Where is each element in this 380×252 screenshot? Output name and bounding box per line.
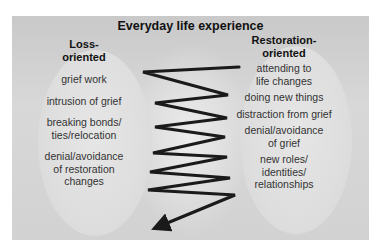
oscillation-zigzag-arrow [0, 0, 380, 252]
